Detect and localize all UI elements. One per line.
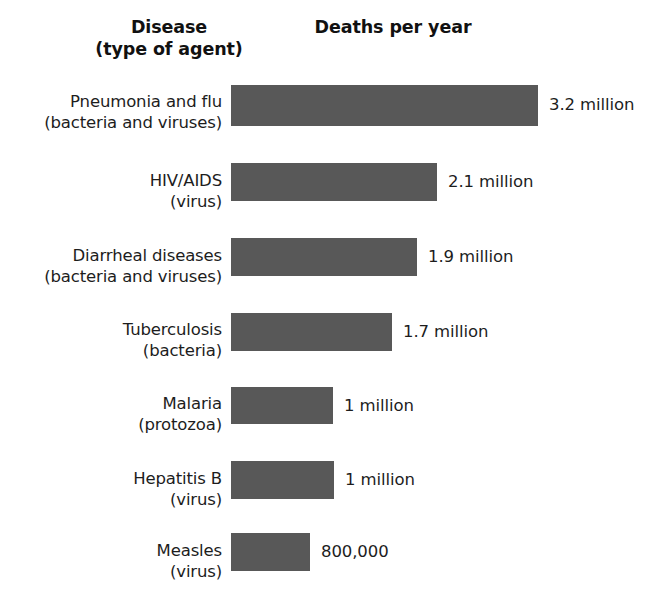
bar: [231, 85, 538, 126]
row-agent-type: (virus): [0, 562, 222, 583]
row-agent-type: (protozoa): [0, 415, 222, 436]
row-disease-name: Pneumonia and flu: [0, 92, 222, 113]
bar: [231, 313, 392, 351]
row-label: Malaria(protozoa): [0, 394, 222, 435]
bar: [231, 238, 417, 276]
row-agent-type: (bacteria and viruses): [0, 113, 222, 134]
row-label: HIV/AIDS(virus): [0, 171, 222, 212]
row-label: Tuberculosis(bacteria): [0, 320, 222, 361]
bar: [231, 163, 437, 201]
bar-value-label: 1.7 million: [403, 322, 488, 342]
bar-value-label: 1.9 million: [428, 247, 513, 267]
bar: [231, 461, 334, 499]
chart-rows: Pneumonia and flu(bacteria and viruses)3…: [0, 0, 665, 599]
bar-value-label: 3.2 million: [549, 95, 634, 115]
bar: [231, 533, 310, 571]
bar: [231, 387, 333, 424]
row-label: Measles(virus): [0, 541, 222, 582]
bar-value-label: 1 million: [344, 396, 414, 416]
bar-value-label: 2.1 million: [448, 172, 533, 192]
row-disease-name: HIV/AIDS: [0, 171, 222, 192]
row-agent-type: (bacteria): [0, 341, 222, 362]
row-disease-name: Measles: [0, 541, 222, 562]
bar-value-label: 1 million: [345, 470, 415, 490]
row-disease-name: Malaria: [0, 394, 222, 415]
row-agent-type: (virus): [0, 192, 222, 213]
row-disease-name: Hepatitis B: [0, 469, 222, 490]
row-label: Pneumonia and flu(bacteria and viruses): [0, 92, 222, 133]
row-label: Hepatitis B(virus): [0, 469, 222, 510]
row-disease-name: Diarrheal diseases: [0, 246, 222, 267]
row-label: Diarrheal diseases(bacteria and viruses): [0, 246, 222, 287]
row-disease-name: Tuberculosis: [0, 320, 222, 341]
row-agent-type: (bacteria and viruses): [0, 267, 222, 288]
row-agent-type: (virus): [0, 490, 222, 511]
bar-chart: Disease (type of agent) Deaths per year …: [0, 0, 665, 599]
bar-value-label: 800,000: [321, 542, 389, 562]
